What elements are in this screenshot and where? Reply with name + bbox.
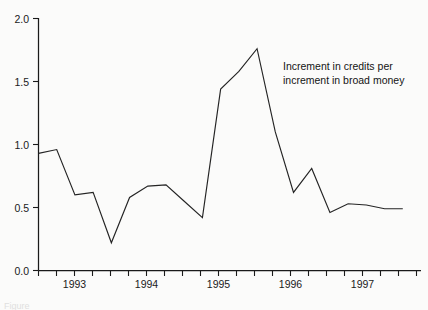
x-tick-label-1996: 1996: [279, 278, 303, 290]
chart-background: [0, 0, 428, 310]
x-tick-label-1994: 1994: [135, 278, 159, 290]
line-chart: 2.0 1.5 1.0 0.5 0.0: [0, 0, 428, 310]
x-tick-label-1993: 1993: [63, 278, 87, 290]
annotation-line-2: increment in broad money: [283, 74, 405, 86]
figure-caption-fragment: Figure: [4, 301, 30, 310]
y-tick-label-2-0: 2.0: [14, 13, 29, 25]
y-tick-label-1-0: 1.0: [14, 139, 29, 151]
figure-container: 2.0 1.5 1.0 0.5 0.0: [0, 0, 428, 310]
y-tick-label-0-5: 0.5: [14, 202, 29, 214]
y-tick-label-0-0: 0.0: [14, 265, 29, 277]
x-tick-label-1995: 1995: [207, 278, 231, 290]
y-tick-label-1-5: 1.5: [14, 76, 29, 88]
annotation-line-1: Increment in credits per: [283, 60, 393, 72]
x-tick-label-1997: 1997: [351, 278, 375, 290]
